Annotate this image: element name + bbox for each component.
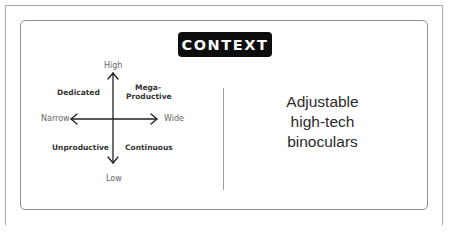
quadrant-mega-productive-line1: Mega-: [126, 83, 170, 92]
axis-label-low: Low: [106, 174, 122, 183]
quadrant-continuous: Continuous: [125, 143, 173, 152]
quadrant-dedicated: Dedicated: [57, 88, 100, 97]
product-line-2: high-tech: [250, 112, 395, 132]
product-line-1: Adjustable: [250, 92, 395, 112]
quadrant-mega-productive-line2: Productive: [126, 92, 170, 101]
axis-label-wide: Wide: [164, 114, 184, 123]
product-line-3: binoculars: [250, 132, 395, 152]
quadrant-unproductive: Unproductive: [52, 143, 109, 152]
axis-label-narrow: Narrow: [41, 114, 70, 123]
product-description: Adjustable high-tech binoculars: [250, 92, 395, 152]
quadrant-mega-productive: Mega- Productive: [126, 83, 170, 101]
vertical-divider: [223, 88, 224, 190]
axis-label-high: High: [104, 61, 122, 70]
